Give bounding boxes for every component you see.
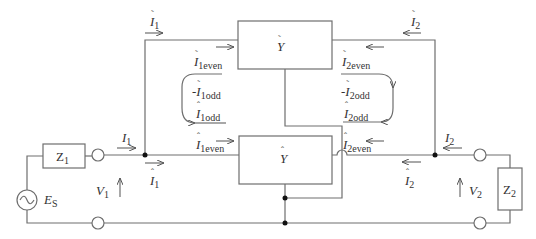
junction-dot [143, 153, 148, 158]
v2-label: V2 [469, 184, 482, 200]
top-admittance-block [238, 21, 332, 69]
circuit-wiring [0, 0, 536, 239]
loop-arrow-port2-odd [381, 88, 393, 122]
i1odd-tilde-label: -I1odd [192, 85, 221, 101]
circuit-diagram: Y Y Z1 Z2 ES V1 V2 I1 I2 I1even I2even -… [0, 0, 536, 239]
terminal-port1-bottom [92, 217, 104, 229]
i2-label: I2 [445, 131, 454, 147]
i1-hat-label: I1 [150, 174, 159, 190]
i2odd-tilde-label: -I2odd [341, 85, 370, 101]
i2-hat-label: I2 [405, 174, 414, 190]
i2even-hat-label: I2even [343, 138, 371, 154]
source-label: ES [44, 193, 58, 209]
terminal-port2-bottom [474, 217, 486, 229]
v1-label: V1 [96, 184, 109, 200]
z1-label: Z1 [56, 150, 69, 166]
i1-tilde-label: I1 [150, 15, 159, 31]
i1even-tilde-label: I1even [194, 55, 222, 71]
terminal-port2-top [474, 149, 486, 161]
bottom-block-label: Y [280, 152, 287, 165]
terminal-port1-top [92, 149, 104, 161]
i2even-tilde-label: I2even [342, 55, 370, 71]
z2-label: Z2 [503, 183, 516, 199]
junction-dot [283, 196, 288, 201]
i1even-hat-label: I1even [196, 138, 224, 154]
i1odd-hat-label: I1odd [196, 107, 220, 123]
junction-dot [433, 153, 438, 158]
top-block-label: Y [277, 40, 284, 53]
i2-tilde-label: I2 [411, 15, 420, 31]
i2odd-hat-label: I2odd [344, 107, 368, 123]
i1-label: I1 [122, 131, 131, 147]
junction-dot [283, 221, 288, 226]
